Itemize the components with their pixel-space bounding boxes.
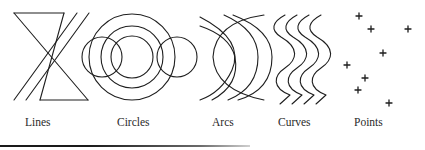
points-label: Points <box>354 116 383 128</box>
arcs-drawing <box>200 15 272 100</box>
arcs-label: Arcs <box>212 116 234 128</box>
points-drawing <box>344 13 411 106</box>
curves-label: Curves <box>278 116 311 128</box>
lines-drawing <box>14 13 89 100</box>
lines-label: Lines <box>25 116 51 128</box>
circles-drawing <box>82 14 197 100</box>
circles-label: Circles <box>117 116 150 128</box>
curves-drawing <box>274 15 331 104</box>
bottom-rule-divider <box>0 145 250 147</box>
